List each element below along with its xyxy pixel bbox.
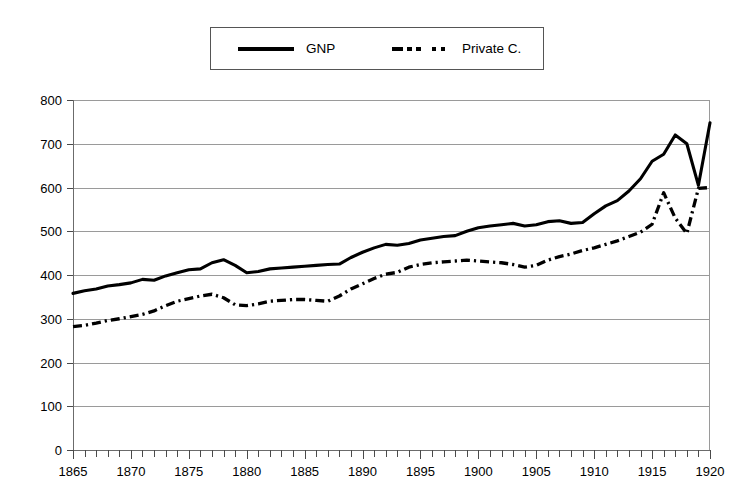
x-tick-label-1900: 1900: [464, 464, 493, 479]
series-line-gnp: [73, 123, 710, 294]
y-tick-label-600: 600: [40, 181, 62, 196]
y-tick-label-700: 700: [40, 137, 62, 152]
x-tick-label-1905: 1905: [522, 464, 551, 479]
chart-legend: GNPPrivate C.: [211, 28, 544, 70]
line-chart: 0100200300400500600700800 18651870187518…: [0, 0, 740, 499]
x-tick-label-1890: 1890: [348, 464, 377, 479]
y-tick-label-200: 200: [40, 356, 62, 371]
x-axis-ticks: 1865187018751880188518901895190019051910…: [59, 450, 725, 479]
series-line-private-c: [73, 188, 710, 327]
y-tick-label-800: 800: [40, 93, 62, 108]
y-tick-label-400: 400: [40, 268, 62, 283]
x-tick-label-1885: 1885: [290, 464, 319, 479]
x-tick-label-1915: 1915: [638, 464, 667, 479]
x-tick-label-1895: 1895: [406, 464, 435, 479]
x-tick-label-1880: 1880: [232, 464, 261, 479]
caption-partial-text: [0, 489, 740, 499]
y-tick-label-300: 300: [40, 312, 62, 327]
x-tick-label-1870: 1870: [116, 464, 145, 479]
y-tick-label-500: 500: [40, 224, 62, 239]
x-tick-label-1865: 1865: [59, 464, 88, 479]
x-tick-label-1920: 1920: [696, 464, 725, 479]
legend-label-0: GNP: [306, 41, 335, 56]
chart-container: 0100200300400500600700800 18651870187518…: [0, 0, 740, 499]
y-axis-ticks: 0100200300400500600700800: [40, 93, 73, 458]
data-series-group: [73, 123, 710, 327]
y-tick-label-0: 0: [55, 443, 62, 458]
legend-label-1: Private C.: [462, 41, 521, 56]
y-tick-label-100: 100: [40, 399, 62, 414]
x-tick-label-1910: 1910: [580, 464, 609, 479]
x-tick-label-1875: 1875: [174, 464, 203, 479]
